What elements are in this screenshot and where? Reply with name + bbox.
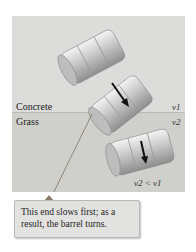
speed-v2-label: v2 (172, 117, 181, 127)
leader-line (50, 114, 92, 192)
callout-box: This end slows first; as a result, the b… (14, 200, 140, 238)
concrete-label: Concrete (16, 101, 52, 112)
grass-label: Grass (16, 116, 39, 127)
barrel-2 (85, 73, 155, 138)
figure-panel: Concrete Grass v1 v2 v2 < v1 (12, 16, 185, 192)
speed-relation-label: v2 < v1 (134, 178, 162, 188)
speed-v1-label: v1 (172, 102, 181, 112)
barrel-1 (54, 28, 126, 88)
barrel-3 (103, 128, 176, 178)
